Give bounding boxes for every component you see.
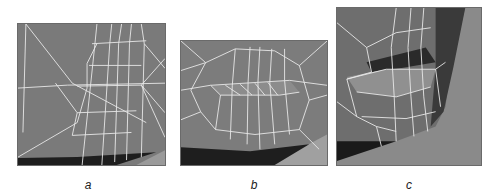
mesh-render-a xyxy=(18,24,165,165)
mesh-render-c xyxy=(337,8,481,165)
wireframe-panel-c xyxy=(336,7,482,166)
wireframe-panel-a xyxy=(17,23,166,166)
mesh-render-b xyxy=(181,41,327,165)
panel-label-c: c xyxy=(399,178,419,192)
panel-label-a: a xyxy=(78,178,98,192)
wireframe-panel-b xyxy=(180,40,328,166)
panel-label-b: b xyxy=(244,178,264,192)
